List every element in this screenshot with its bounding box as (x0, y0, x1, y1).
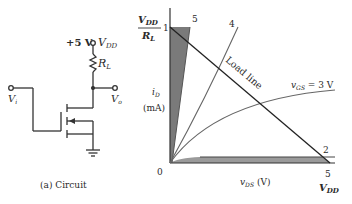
load-line (170, 27, 330, 163)
curve-vgs-3 (170, 90, 335, 163)
body-arrow-icon (69, 118, 75, 124)
y-top-denominator: RL (141, 30, 155, 43)
x-vdd-label: VDD (319, 182, 340, 195)
input-terminal (9, 86, 14, 91)
id-axis-label: iD (152, 87, 160, 98)
curve-4-label: 4 (229, 19, 235, 29)
y-top-numerator: VDD (138, 14, 159, 27)
supply-voltage-label: +5 V (66, 37, 93, 48)
ground-icon (86, 150, 100, 156)
vgs-label: vGS = 3 V (291, 80, 334, 91)
id-unit-label: (mA) (143, 103, 165, 113)
vo-label: Vo (111, 93, 122, 105)
mosfet-diagram: +5 V VDD RL Vi Vo (a) Circuit VDD RL 1 5… (0, 0, 352, 204)
resistor-rl (90, 54, 96, 72)
cutoff-region-shade (170, 157, 330, 163)
circuit-caption: (a) Circuit (40, 180, 87, 190)
output-terminal (113, 86, 118, 91)
circuit-labels: +5 V VDD RL Vi Vo (a) Circuit (8, 36, 122, 190)
vds-axis-label: vDS (V) (240, 177, 270, 188)
rl-label: RL (97, 57, 111, 71)
y-one-label: 1 (163, 23, 169, 33)
load-line-label: Load line (224, 54, 266, 91)
origin-label: 0 (157, 167, 163, 177)
graph-labels: VDD RL 1 5 4 vGS = 3 V 2 Load line iD (m… (138, 14, 340, 195)
curve-5-label: 5 (192, 14, 198, 24)
vdd-label: VDD (98, 36, 118, 50)
x-five-label: 5 (325, 169, 331, 179)
curve-2-label: 2 (323, 145, 329, 155)
vi-label: Vi (8, 93, 17, 105)
